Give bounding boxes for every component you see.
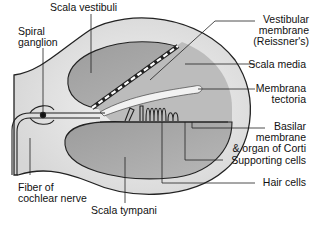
label-scala-media: Scala media [248,59,306,70]
label-hair-cells: Hair cells [263,177,306,188]
label-scala-vestibuli: Scala vestibuli [50,2,117,13]
label-membrana-tectoria: Membrana tectoria [256,83,306,105]
label-supporting-cells: Supporting cells [231,155,306,166]
label-scala-tympani: Scala tympani [91,205,157,216]
label-spiral-ganglion: Spiral ganglion [18,26,58,48]
label-basilar-membrane: Basilar membrane & organ of Corti [232,121,306,154]
label-vestibular-membrane: Vestibular membrane (Reissner's) [253,14,309,47]
label-fiber-of-cochlear-nerve: Fiber of cochlear nerve [18,182,87,204]
